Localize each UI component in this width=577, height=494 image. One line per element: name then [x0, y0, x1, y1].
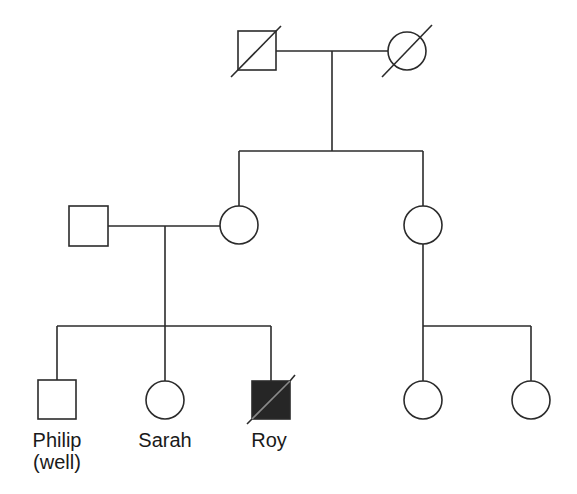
female-circle-icon [146, 381, 184, 419]
pedigree-diagram [0, 0, 577, 494]
philip-name: Philip [33, 429, 82, 451]
cousin-2 [512, 381, 550, 419]
philip-label: Philip (well) [33, 429, 82, 473]
sarah [146, 381, 184, 419]
grandfather [231, 26, 281, 77]
roy [247, 375, 295, 424]
sarah-label: Sarah [138, 429, 191, 451]
grandmother [382, 25, 432, 77]
female-circle-icon [512, 381, 550, 419]
cousin-1 [404, 381, 442, 419]
philip [38, 380, 76, 419]
male-square-icon [69, 206, 108, 246]
female-circle-icon [220, 206, 258, 244]
male-square-icon [38, 380, 76, 419]
mother [220, 206, 258, 244]
philip-note: (well) [33, 451, 82, 473]
roy-label: Roy [251, 429, 287, 451]
deceased-slash-icon-tail [247, 419, 252, 424]
deceased-slash-icon-head [290, 375, 295, 381]
father [69, 206, 108, 246]
female-circle-icon [404, 206, 442, 244]
female-circle-icon [404, 381, 442, 419]
aunt [404, 206, 442, 244]
